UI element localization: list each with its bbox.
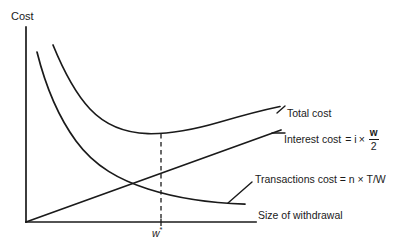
interest-cost-equals-sign: = [345,134,351,145]
fraction-denominator: 2 [370,140,378,152]
optimum-w-star-label: w* [152,226,163,239]
x-axis-label: Size of withdrawal [258,210,343,221]
transactions-cost-leader-line [228,182,252,203]
w-star-asterisk: * [160,225,163,234]
plot-area [0,0,416,248]
multiplication-sign: × [359,134,365,145]
cost-diagram: Cost Size of withdrawal Total cost Inter… [0,0,416,248]
interest-cost-line [26,130,281,222]
y-axis-label: Cost [11,11,34,23]
interest-cost-label: Interest cost = i × w 2 [284,128,379,152]
interest-rate-symbol: i [354,134,356,145]
total-cost-curve [53,45,280,134]
transactions-cost-label: Transactions cost = n × T/W [255,174,386,185]
w-star-letter: w [152,227,160,239]
fraction-numerator: w [369,128,379,139]
interest-cost-name: Interest cost [284,134,341,145]
w-over-2-fraction: w 2 [369,128,379,152]
total-cost-label: Total cost [287,108,331,119]
